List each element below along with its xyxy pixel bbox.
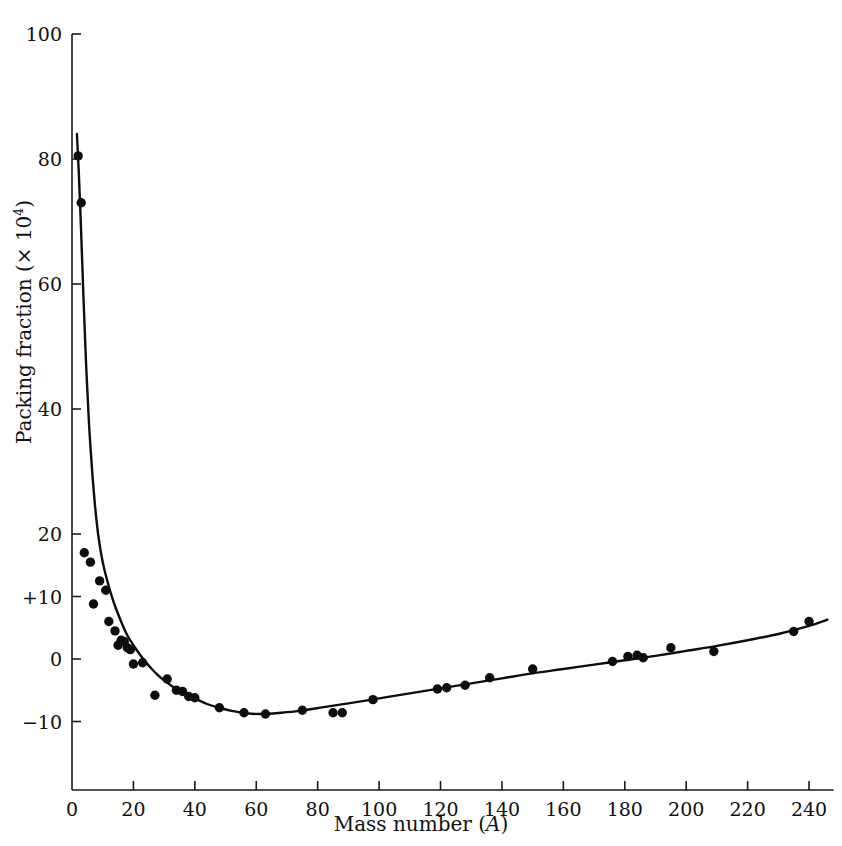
data-point — [608, 657, 617, 666]
data-point — [95, 576, 104, 585]
data-point — [368, 695, 377, 704]
axis-lines — [72, 34, 834, 790]
data-point — [639, 653, 648, 662]
data-point — [104, 617, 113, 626]
data-point-markers — [73, 151, 813, 719]
data-point — [163, 674, 172, 683]
data-point — [80, 548, 89, 557]
y-tick-label: +10 — [0, 586, 62, 608]
data-point — [804, 617, 813, 626]
data-point — [190, 693, 199, 702]
axis-ticks — [72, 34, 809, 790]
x-axis-title: Mass number (A) — [0, 812, 842, 836]
y-tick-label: 20 — [0, 523, 62, 545]
fit-curve — [77, 134, 828, 714]
data-point — [215, 703, 224, 712]
y-axis-title-suffix: ) — [12, 200, 36, 208]
data-point — [77, 198, 86, 207]
data-point — [110, 626, 119, 635]
data-point — [460, 681, 469, 690]
chart-plot-area — [0, 0, 842, 846]
data-point — [138, 658, 147, 667]
data-point — [666, 643, 675, 652]
data-point — [528, 664, 537, 673]
data-point — [86, 557, 95, 566]
data-point — [298, 706, 307, 715]
data-point — [261, 709, 270, 718]
data-point — [485, 673, 494, 682]
data-point — [239, 708, 248, 717]
data-point — [126, 645, 135, 654]
y-tick-label: −10 — [0, 711, 62, 733]
data-point — [89, 599, 98, 608]
data-point — [101, 586, 110, 595]
data-point — [789, 627, 798, 636]
x-axis-title-symbol: A — [486, 812, 500, 836]
y-axis-title-prefix: Packing fraction (× 10 — [12, 216, 36, 444]
y-tick-label: 100 — [0, 23, 62, 45]
data-point — [338, 708, 347, 717]
y-tick-label: 0 — [0, 648, 62, 670]
data-point — [709, 647, 718, 656]
data-point — [433, 684, 442, 693]
data-point — [150, 691, 159, 700]
y-axis-title-exponent: 4 — [11, 208, 26, 216]
packing-fraction-chart-figure: 10080604020+100−10 020406080100120140160… — [0, 0, 842, 846]
x-axis-title-prefix: Mass number ( — [334, 812, 486, 836]
data-point — [328, 708, 337, 717]
y-axis-title: Packing fraction (× 104) — [12, 122, 36, 522]
data-point — [129, 659, 138, 668]
data-point — [73, 151, 82, 160]
x-axis-title-suffix: ) — [501, 812, 509, 836]
data-point — [442, 683, 451, 692]
data-point — [623, 652, 632, 661]
